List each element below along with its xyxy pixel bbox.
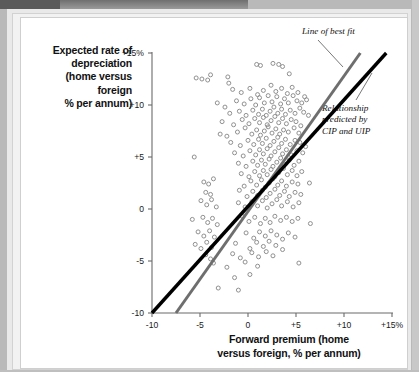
page-root: Expected rate of depreciation (home vers… — [0, 0, 419, 372]
plot-canvas — [0, 0, 419, 372]
scatter-points — [190, 61, 312, 292]
cip-uip-line — [152, 53, 386, 313]
best-fit-leader-line — [318, 40, 343, 67]
scatter-chart: Expected rate of depreciation (home vers… — [0, 0, 419, 372]
